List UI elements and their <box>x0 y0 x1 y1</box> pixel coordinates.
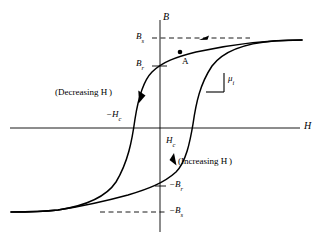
axis-group <box>10 20 300 232</box>
coercivity-negative-label: −Hc <box>106 110 121 121</box>
remanence-negative-label: −Br <box>169 180 183 191</box>
arrow-descending-branch <box>138 91 145 104</box>
arrow-upper-branch <box>199 36 209 41</box>
coercivity-positive-label: Hc <box>166 136 175 147</box>
b-axis-label: B <box>163 12 169 22</box>
remanence-positive-label: Br <box>136 59 144 70</box>
hysteresis-plot <box>0 0 323 246</box>
initial-permeability-label: μi <box>228 74 234 85</box>
saturation-negative-label: −Bs <box>169 206 183 217</box>
hysteresis-figure: B H Bs Br −Br −Bs Hc −Hc A μi (Decreasin… <box>0 0 323 246</box>
saturation-positive-label: Bs <box>136 32 144 43</box>
decreasing-h-note: (Decreasing H ) <box>55 88 112 97</box>
h-axis-label: H <box>304 121 311 131</box>
point-a-dot <box>178 50 183 55</box>
point-a-label: A <box>182 57 189 66</box>
arrow-ascending-branch <box>170 153 177 166</box>
increasing-h-note: (Increasing H ) <box>178 157 232 166</box>
initial-permeability-triangle <box>206 73 224 92</box>
